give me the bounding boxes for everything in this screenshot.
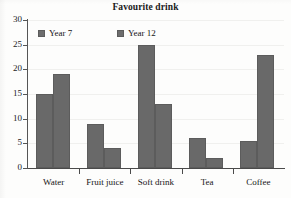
y-axis-tick-label-wrap: 5 — [0, 138, 22, 147]
bar-group — [78, 20, 129, 168]
bar-group — [27, 20, 78, 168]
x-axis-tick — [79, 169, 80, 174]
bar-group — [181, 20, 232, 168]
x-axis-category-label: Water — [28, 177, 79, 187]
y-axis-tick-label: 0 — [1, 163, 22, 172]
y-axis-tick-label: 10 — [1, 114, 22, 123]
y-axis-tick-label-wrap: 25 — [0, 40, 22, 49]
bar-group — [232, 20, 283, 168]
bar[interactable] — [138, 45, 155, 168]
y-axis-tick — [23, 168, 28, 169]
y-axis-tick-label: 15 — [1, 89, 22, 98]
y-axis-tick-label: 25 — [1, 40, 22, 49]
legend-label: Year 12 — [128, 28, 156, 38]
bar[interactable] — [206, 158, 223, 168]
y-axis-tick-label: 30 — [1, 15, 22, 24]
x-axis-category-label: Coffee — [233, 177, 284, 187]
y-axis-tick-label-wrap: 20 — [0, 64, 22, 73]
legend-label: Year 7 — [49, 28, 72, 38]
y-axis-tick-label: 5 — [1, 138, 22, 147]
chart-title: Favourite drink — [0, 2, 291, 12]
x-axis-tick — [130, 169, 131, 174]
bar[interactable] — [189, 138, 206, 168]
plot-area — [27, 20, 284, 168]
legend-swatch-icon — [38, 30, 45, 37]
x-axis-tick — [182, 169, 183, 174]
bar[interactable] — [257, 55, 274, 168]
y-axis-tick-label: 20 — [1, 64, 22, 73]
bar[interactable] — [240, 141, 257, 168]
bar[interactable] — [104, 148, 121, 168]
y-axis-tick-label-wrap: 10 — [0, 114, 22, 123]
chart-screenshot: Favourite drink 051015202530 WaterFruit … — [0, 0, 291, 198]
x-axis-category-label: Fruit juice — [79, 177, 130, 187]
bar[interactable] — [53, 74, 70, 168]
legend-item-year-7[interactable]: Year 7 — [38, 28, 72, 38]
legend-item-year-12[interactable]: Year 12 — [117, 28, 156, 38]
x-axis-category-label: Soft drink — [130, 177, 181, 187]
y-axis-tick-label-wrap: 30 — [0, 15, 22, 24]
bar[interactable] — [87, 124, 104, 168]
legend-swatch-icon — [117, 30, 124, 37]
x-axis-tick — [233, 169, 234, 174]
bar[interactable] — [155, 104, 172, 168]
x-axis-line — [27, 168, 285, 169]
y-axis-tick-label-wrap: 15 — [0, 89, 22, 98]
y-axis-tick-label-wrap: 0 — [0, 163, 22, 172]
bar-group — [129, 20, 180, 168]
bar[interactable] — [36, 94, 53, 168]
x-axis-category-label: Tea — [182, 177, 233, 187]
